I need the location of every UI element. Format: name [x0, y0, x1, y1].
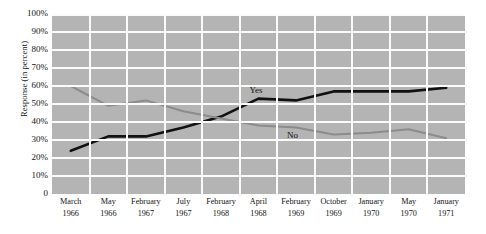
x-axis-tick-label: July1967: [165, 196, 203, 232]
x-tick-month: April: [250, 197, 267, 206]
y-axis-tick-label: 10%: [4, 171, 48, 180]
horizontal-gridline: [52, 157, 465, 159]
x-tick-month: February: [281, 197, 311, 206]
y-axis-tick-label: 30%: [4, 135, 48, 144]
x-tick-month: July: [177, 197, 191, 206]
x-axis-tick-label: April1968: [240, 196, 278, 232]
horizontal-gridline: [52, 103, 465, 105]
x-tick-year: 1971: [427, 208, 465, 220]
y-axis-tick-label: 40%: [4, 117, 48, 126]
x-axis-tick-label: January1970: [352, 196, 390, 232]
x-tick-month: January: [358, 197, 383, 206]
x-axis-tick-label: March1966: [52, 196, 90, 232]
y-axis-tick-label: 0: [4, 189, 48, 198]
y-axis-tick-label: 80%: [4, 45, 48, 54]
y-axis-tick-label: 60%: [4, 81, 48, 90]
x-axis-tick-labels: March1966May1966February1967July1967Febr…: [52, 196, 465, 232]
horizontal-gridline: [52, 139, 465, 141]
y-axis-tick-label: 70%: [4, 63, 48, 72]
x-tick-year: 1969: [277, 208, 315, 220]
x-axis-tick-label: February1967: [127, 196, 165, 232]
chart-figure: Response (in percent) 100%90%80%70%60%50…: [0, 0, 486, 234]
horizontal-gridline: [52, 14, 465, 16]
x-tick-year: 1967: [127, 208, 165, 220]
x-tick-year: 1967: [165, 208, 203, 220]
x-tick-year: 1970: [390, 208, 428, 220]
x-axis-tick-label: February1969: [277, 196, 315, 232]
x-tick-month: February: [131, 197, 161, 206]
x-tick-month: March: [60, 197, 81, 206]
horizontal-gridline: [52, 31, 465, 33]
x-tick-year: 1966: [90, 208, 128, 220]
x-tick-year: 1966: [52, 208, 90, 220]
y-axis-tick-labels: 100%90%80%70%60%50%40%30%20%10%0: [0, 0, 48, 234]
x-axis-tick-label: February1968: [202, 196, 240, 232]
y-axis-tick-label: 100%: [4, 9, 48, 18]
plot-area: [52, 14, 465, 194]
x-tick-month: February: [206, 197, 236, 206]
x-axis-tick-label: May1970: [390, 196, 428, 232]
x-tick-month: January: [434, 197, 459, 206]
x-tick-year: 1968: [202, 208, 240, 220]
x-tick-month: May: [401, 197, 416, 206]
x-tick-year: 1969: [315, 208, 353, 220]
x-tick-year: 1968: [240, 208, 278, 220]
x-axis-tick-label: May1966: [90, 196, 128, 232]
series-label-yes: Yes: [250, 85, 263, 95]
horizontal-gridline: [52, 121, 465, 123]
x-tick-month: October: [320, 197, 346, 206]
horizontal-gridline: [52, 49, 465, 51]
series-label-no: No: [287, 130, 298, 140]
x-tick-year: 1970: [352, 208, 390, 220]
horizontal-gridline: [52, 175, 465, 177]
x-axis-tick-label: January1971: [427, 196, 465, 232]
x-tick-month: May: [101, 197, 116, 206]
y-axis-tick-label: 90%: [4, 27, 48, 36]
y-axis-tick-label: 50%: [4, 99, 48, 108]
horizontal-gridline: [52, 67, 465, 69]
y-axis-tick-label: 20%: [4, 153, 48, 162]
x-axis-tick-label: October1969: [315, 196, 353, 232]
